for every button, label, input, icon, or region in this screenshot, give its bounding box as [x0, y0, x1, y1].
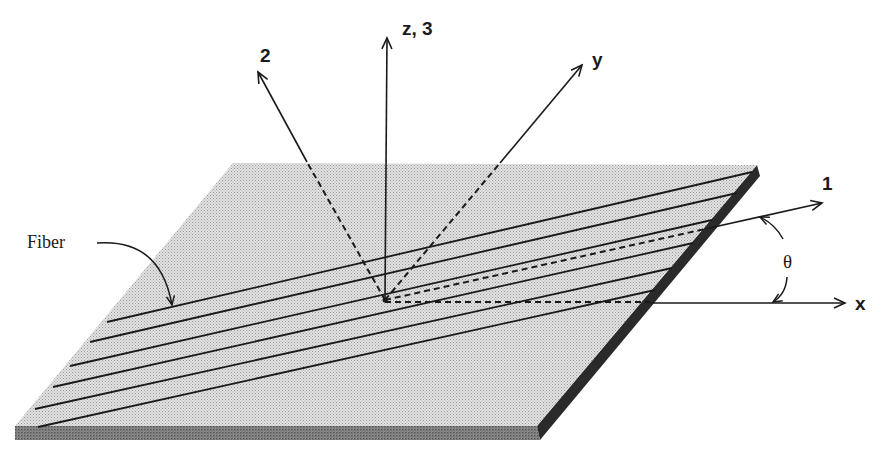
label-axis-y: y — [592, 49, 603, 70]
plate-front-edge — [15, 426, 540, 440]
label-axis-z3: z, 3 — [402, 18, 433, 39]
theta-arc-lower — [773, 277, 787, 302]
lamina-coordinate-diagram: z, 3 2 y 1 x θ Fiber — [0, 0, 888, 460]
theta-arc-upper — [760, 217, 783, 239]
label-axis-1: 1 — [822, 173, 833, 194]
label-axis-x: x — [855, 293, 866, 314]
label-theta: θ — [783, 251, 792, 272]
label-axis-2: 2 — [260, 45, 271, 66]
axis-y — [500, 65, 582, 163]
axis-2 — [258, 72, 307, 162]
label-fiber: Fiber — [27, 232, 65, 252]
